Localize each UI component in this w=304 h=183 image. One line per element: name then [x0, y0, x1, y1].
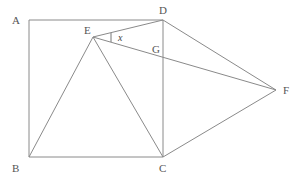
vertex-label-a: A — [12, 14, 20, 26]
segment-eb — [29, 37, 93, 157]
vertex-label-f: F — [283, 84, 289, 96]
vertex-label-g: G — [152, 43, 160, 55]
geometry-figure-svg: A B C D E F G x — [0, 0, 304, 183]
segment-cf — [163, 90, 276, 157]
segment-df — [163, 20, 276, 90]
vertex-label-b: B — [12, 162, 19, 174]
segment-ec — [93, 37, 163, 157]
segment-ed — [93, 20, 163, 37]
vertex-label-e: E — [84, 24, 91, 36]
geometry-diagram: A B C D E F G x — [0, 0, 304, 183]
vertex-label-c: C — [159, 162, 166, 174]
vertex-label-d: D — [159, 4, 167, 16]
segment-ef — [93, 37, 276, 90]
angle-label-x: x — [117, 32, 123, 43]
